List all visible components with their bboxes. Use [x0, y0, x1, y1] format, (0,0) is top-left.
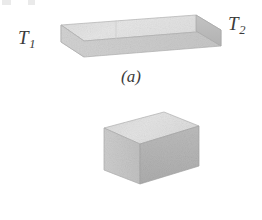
temperature-symbol: T	[228, 13, 239, 34]
temperature-symbol: T	[18, 27, 29, 48]
cube-solid-illustration	[96, 110, 208, 188]
temperature-label-t1-slab: T1	[18, 28, 36, 51]
temperature-label-t2-slab: T2	[228, 14, 246, 37]
panel-a-caption: (a)	[0, 68, 262, 85]
panel-a: T1 T2 (a)	[0, 0, 262, 110]
panel-b: T1 T2 (b)	[0, 110, 262, 220]
temperature-subscript: 2	[239, 23, 245, 37]
slab-solid-illustration	[44, 13, 224, 63]
heat-conduction-figure: T1 T2 (a)	[0, 0, 262, 220]
temperature-subscript: 1	[29, 37, 35, 51]
